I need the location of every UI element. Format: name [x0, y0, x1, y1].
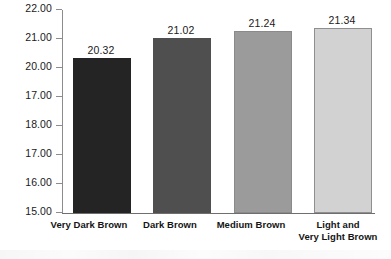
plot-area: 20.32 21.02 21.24 21.34 — [62, 10, 375, 213]
x-axis-line — [62, 213, 375, 214]
bar-group: 21.02 — [153, 10, 209, 213]
bar[interactable] — [314, 28, 372, 213]
bar[interactable] — [153, 38, 211, 213]
y-axis-tick-label: 16.00 — [25, 176, 52, 188]
y-axis-tick-label: 22.00 — [25, 2, 52, 14]
x-axis-category-label: Light and Very Light Brown — [288, 219, 388, 242]
bar-value-label: 21.02 — [168, 24, 195, 36]
y-axis-tick-label: 18.00 — [25, 118, 52, 130]
x-axis-category-label: Medium Brown — [204, 219, 298, 231]
bar-group: 21.24 — [234, 10, 290, 213]
y-axis-tick-label: 20.00 — [25, 60, 52, 72]
scan-artifact — [0, 250, 391, 259]
bar[interactable] — [73, 58, 131, 213]
bar-value-label: 21.34 — [329, 14, 356, 26]
y-axis-tick-label: 17.00 — [25, 89, 52, 101]
bar-group: 20.32 — [73, 10, 129, 213]
y-axis-tick-label: 15.00 — [25, 205, 52, 217]
bar-group: 21.34 — [314, 10, 370, 213]
x-axis-category-label: Very Dark Brown — [43, 219, 135, 231]
y-axis-tick-label: 17.00 — [25, 147, 52, 159]
y-axis-tick-label: 21.00 — [25, 31, 52, 43]
bar[interactable] — [234, 31, 292, 213]
bar-value-label: 20.32 — [88, 44, 115, 56]
x-axis-category-label: Dark Brown — [125, 219, 215, 231]
bar-chart: 22.00 21.00 20.00 17.00 18.00 17.00 16.0… — [0, 0, 391, 259]
bar-value-label: 21.24 — [249, 17, 276, 29]
